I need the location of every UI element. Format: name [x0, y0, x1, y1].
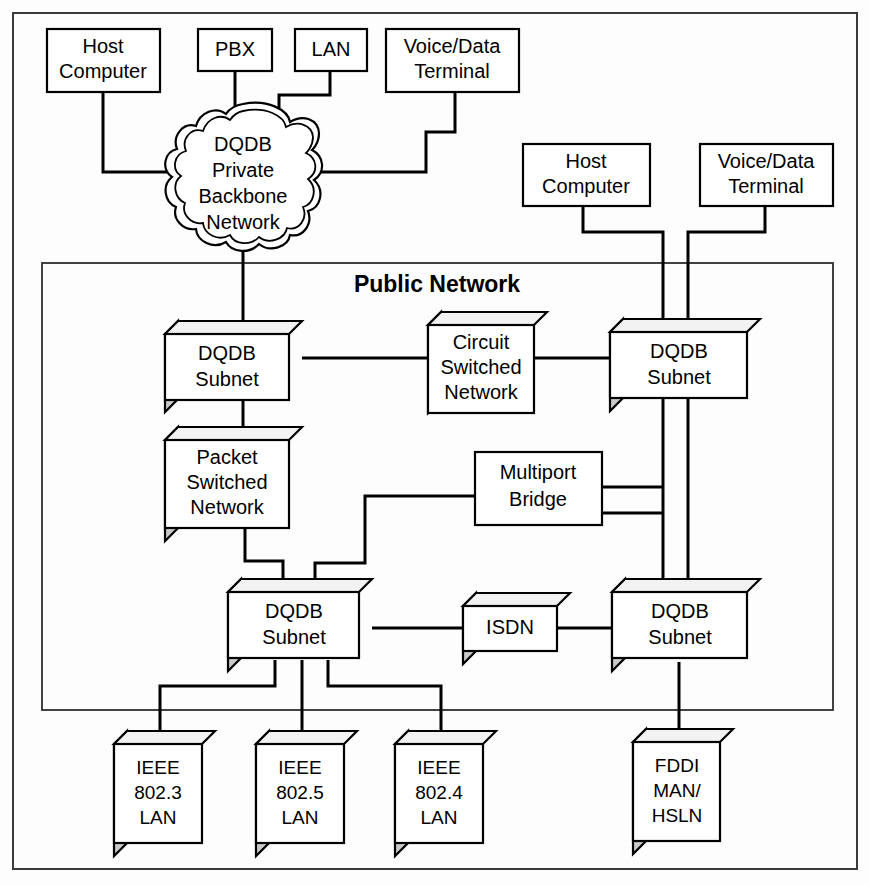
node-lan[interactable]: LAN — [295, 29, 367, 71]
node-pbx-line1: PBX — [215, 38, 255, 60]
node-packet-switched-network-line3: Network — [190, 496, 264, 518]
node-dqdb-private-backbone-line4: Network — [206, 211, 280, 233]
node-dqdb-private-backbone-line3: Backbone — [199, 185, 288, 207]
node-isdn[interactable]: ISDN — [463, 593, 570, 664]
node-circuit-switched-network-line1: Circuit — [453, 331, 510, 353]
node-ieee-802-4-lan-line3: LAN — [421, 807, 458, 828]
node-ieee-802-5-lan[interactable]: IEEE 802.5 LAN — [256, 731, 357, 856]
node-host-computer-right[interactable]: Host Computer — [523, 144, 650, 206]
node-circuit-switched-network[interactable]: Circuit Switched Network — [428, 312, 547, 413]
node-ieee-802-5-lan-line1: IEEE — [278, 757, 321, 778]
node-dqdb-subnet-4-line2: Subnet — [648, 626, 712, 648]
node-host-computer-top-line2: Computer — [59, 60, 147, 82]
node-voice-data-terminal-top-line1: Voice/Data — [404, 35, 502, 57]
node-dqdb-subnet-1[interactable]: DQDB Subnet — [165, 321, 302, 412]
node-dqdb-private-backbone[interactable]: DQDB Private Backbone Network — [165, 103, 322, 251]
node-fddi-man-hsln-line1: FDDI — [655, 755, 699, 776]
node-voice-data-terminal-right-line2: Terminal — [728, 175, 804, 197]
node-pbx[interactable]: PBX — [198, 29, 272, 71]
node-dqdb-subnet-2-line2: Subnet — [647, 366, 711, 388]
node-packet-switched-network[interactable]: Packet Switched Network — [165, 427, 302, 541]
node-ieee-802-4-lan-line1: IEEE — [417, 757, 460, 778]
node-multiport-bridge[interactable]: Multiport Bridge — [475, 452, 602, 525]
node-dqdb-subnet-1-line2: Subnet — [195, 368, 259, 390]
node-circuit-switched-network-line3: Network — [444, 381, 518, 403]
node-dqdb-subnet-3[interactable]: DQDB Subnet — [228, 579, 372, 671]
node-dqdb-subnet-4-line1: DQDB — [651, 600, 709, 622]
node-dqdb-private-backbone-line2: Private — [212, 159, 274, 181]
wire-voicedata-right-to-dqdb2 — [688, 206, 765, 332]
node-packet-switched-network-line1: Packet — [196, 446, 258, 468]
network-diagram: Public Network — [0, 0, 869, 885]
node-dqdb-subnet-1-line1: DQDB — [198, 342, 256, 364]
node-voice-data-terminal-top-line2: Terminal — [414, 60, 490, 82]
wire-voicedata-to-backbone — [315, 92, 455, 172]
node-dqdb-subnet-3-line2: Subnet — [262, 626, 326, 648]
node-host-computer-top[interactable]: Host Computer — [47, 29, 160, 92]
node-fddi-man-hsln[interactable]: FDDI MAN/ HSLN — [633, 729, 733, 854]
node-dqdb-subnet-2[interactable]: DQDB Subnet — [610, 319, 760, 411]
node-dqdb-subnet-3-line1: DQDB — [265, 600, 323, 622]
wire-hostcomputer-right-to-dqdb2 — [583, 206, 663, 332]
node-ieee-802-3-lan[interactable]: IEEE 802.3 LAN — [114, 731, 215, 856]
node-ieee-802-3-lan-line3: LAN — [140, 807, 177, 828]
node-circuit-switched-network-line2: Switched — [440, 356, 521, 378]
node-host-computer-top-line1: Host — [82, 35, 124, 57]
node-dqdb-subnet-4[interactable]: DQDB Subnet — [612, 579, 760, 671]
wire-hostcomputer-to-backbone — [103, 92, 172, 172]
node-ieee-802-5-lan-line2: 802.5 — [276, 782, 324, 803]
node-packet-switched-network-line2: Switched — [186, 471, 267, 493]
node-ieee-802-4-lan-line2: 802.4 — [415, 782, 463, 803]
node-fddi-man-hsln-line3: HSLN — [652, 805, 703, 826]
node-voice-data-terminal-right-line1: Voice/Data — [718, 150, 816, 172]
node-dqdb-private-backbone-line1: DQDB — [214, 133, 272, 155]
node-ieee-802-3-lan-line1: IEEE — [136, 757, 179, 778]
diagram-canvas: Public Network — [0, 0, 869, 885]
node-ieee-802-3-lan-line2: 802.3 — [134, 782, 182, 803]
node-dqdb-subnet-2-line1: DQDB — [650, 340, 708, 362]
node-host-computer-right-line2: Computer — [542, 175, 630, 197]
node-voice-data-terminal-right[interactable]: Voice/Data Terminal — [700, 144, 833, 206]
node-multiport-bridge-line2: Bridge — [509, 488, 567, 510]
node-lan-line1: LAN — [312, 38, 351, 60]
public-network-label: Public Network — [354, 271, 520, 297]
wire-bridge-to-dqdb3 — [315, 496, 475, 592]
node-host-computer-right-line1: Host — [565, 150, 607, 172]
node-ieee-802-5-lan-line3: LAN — [282, 807, 319, 828]
node-ieee-802-4-lan[interactable]: IEEE 802.4 LAN — [395, 731, 496, 856]
node-voice-data-terminal-top[interactable]: Voice/Data Terminal — [386, 29, 519, 92]
node-fddi-man-hsln-line2: MAN/ — [653, 780, 701, 801]
node-isdn-line1: ISDN — [486, 616, 534, 638]
node-multiport-bridge-line1: Multiport — [500, 461, 577, 483]
